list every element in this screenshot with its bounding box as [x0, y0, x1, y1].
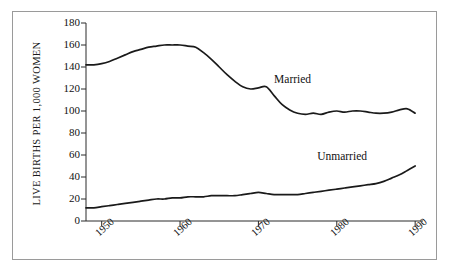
figure-container: LIVE BIRTHS PER 1,000 WOMEN 020406080100… — [0, 0, 449, 271]
chart-plot-area — [0, 0, 449, 271]
series-label-unmarried: Unmarried — [317, 150, 367, 162]
series-line-married — [86, 45, 415, 114]
series-label-married: Married — [274, 73, 311, 85]
series-line-unmarried — [86, 166, 415, 208]
